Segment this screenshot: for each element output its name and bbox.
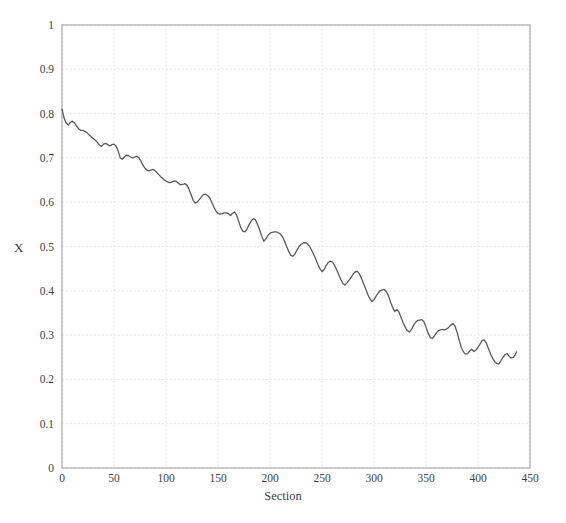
x-tick-label: 50 [91,472,137,484]
y-tick-label: 0.5 [14,241,54,253]
gridlines [62,25,530,468]
x-tick-label: 200 [247,472,293,484]
x-tick-label: 300 [351,472,397,484]
y-tick-label: 1 [14,19,54,31]
data-line-series [62,109,516,364]
y-tick-label: 0.4 [14,285,54,297]
y-tick-label: 0.1 [14,418,54,430]
chart-figure: X Section 00.10.20.30.40.50.60.70.80.91 … [0,0,566,523]
x-tick-label: 100 [143,472,189,484]
x-axis-label: Section [0,489,566,504]
x-tick-label: 0 [39,472,85,484]
x-tick-label: 400 [455,472,501,484]
y-tick-label: 0.8 [14,108,54,120]
plot-area [0,0,566,523]
y-tick-label: 0.3 [14,329,54,341]
x-tick-label: 350 [403,472,449,484]
y-tick-label: 0.6 [14,196,54,208]
plot-frame [62,25,530,468]
x-tick-label: 250 [299,472,345,484]
x-tick-label: 150 [195,472,241,484]
y-tick-label: 0.7 [14,152,54,164]
x-tick-label: 450 [507,472,553,484]
y-tick-label: 0.2 [14,373,54,385]
y-tick-label: 0.9 [14,63,54,75]
